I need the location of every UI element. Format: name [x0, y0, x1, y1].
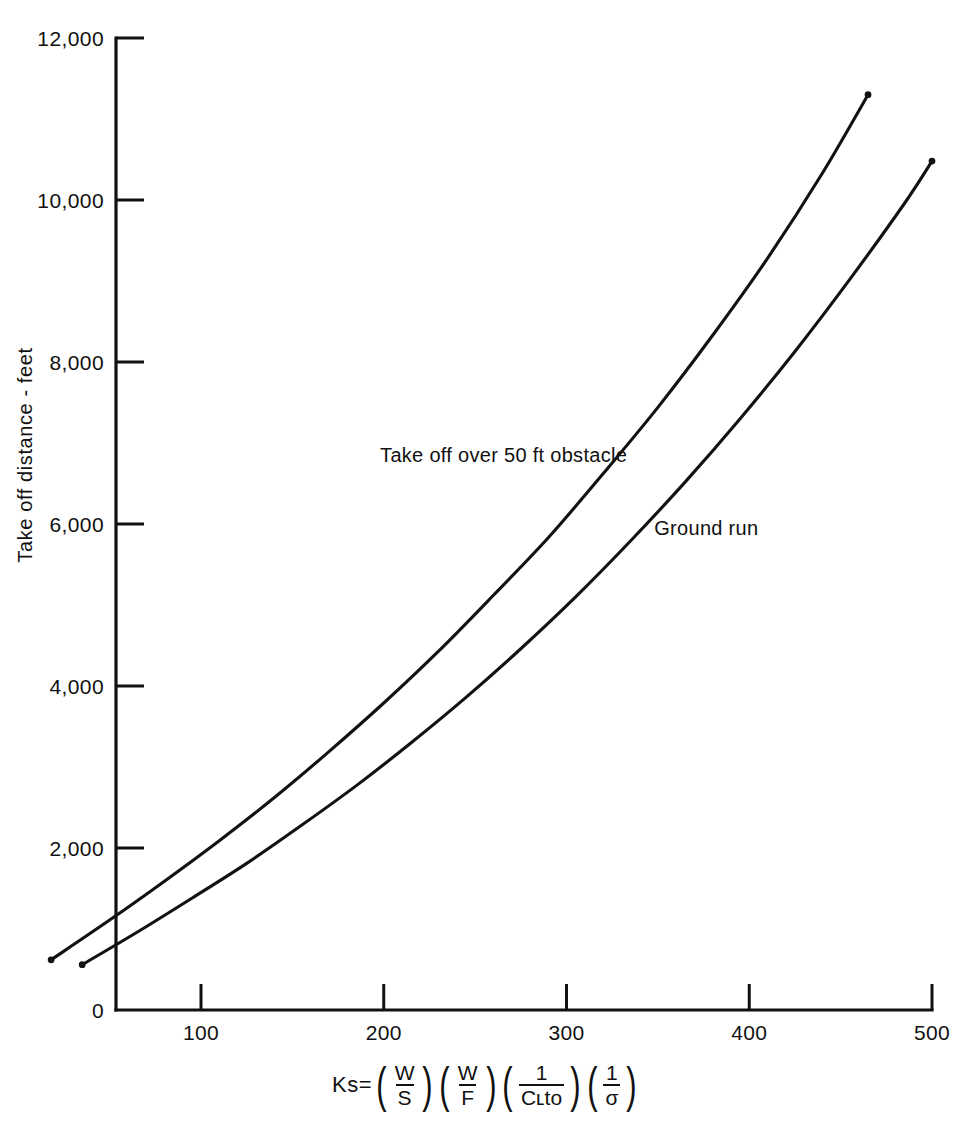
y-axis-tick-labels: 02,0004,0006,0008,00010,00012,000	[37, 27, 104, 1022]
formula-paren-close: )	[486, 1067, 496, 1103]
annotation-ground-run: Ground run	[654, 517, 758, 539]
curve-endpoint	[48, 956, 55, 963]
x-tick-label: 300	[548, 1021, 584, 1044]
formula-paren-open: (	[587, 1067, 597, 1103]
takeoff-distance-chart: 02,0004,0006,0008,00010,00012,000 100200…	[0, 0, 972, 1135]
x-axis-ticks	[201, 984, 932, 1010]
y-tick-label: 8,000	[49, 351, 104, 374]
curve-endpoint	[865, 91, 872, 98]
x-axis-tick-labels: 100200300400500	[183, 1021, 950, 1044]
formula-term: (1σ)	[584, 1062, 640, 1109]
formula-numerator: 1	[604, 1062, 620, 1084]
formula-numerator: 1	[534, 1062, 550, 1084]
formula-paren-open: (	[376, 1067, 386, 1103]
y-axis-ticks	[116, 38, 144, 848]
curve-annotations: Take off over 50 ft obstacleGround run	[380, 444, 758, 539]
y-tick-label: 2,000	[49, 837, 104, 860]
formula-terms: (WS)(WF)(1Cʟto)(1σ)	[373, 1062, 640, 1109]
formula-paren-close: )	[627, 1067, 637, 1103]
x-tick-label: 100	[183, 1021, 219, 1044]
x-tick-label: 200	[366, 1021, 402, 1044]
x-tick-label: 400	[731, 1021, 767, 1044]
chart-figure: 02,0004,0006,0008,00010,00012,000 100200…	[0, 0, 972, 1135]
formula-denominator: Cʟto	[519, 1084, 564, 1108]
formula-denominator: S	[396, 1084, 414, 1108]
formula-term: (WS)	[373, 1062, 436, 1109]
y-axis-title: Take off distance - feet	[14, 347, 36, 562]
formula-numerator: W	[456, 1062, 480, 1084]
y-tick-label: 4,000	[49, 675, 104, 698]
curve-endpoint	[929, 158, 936, 165]
y-tick-label: 0	[92, 999, 104, 1022]
formula-fraction: 1Cʟto	[516, 1062, 567, 1109]
y-tick-label: 10,000	[37, 189, 104, 212]
formula-paren-open: (	[502, 1067, 512, 1103]
y-tick-label: 6,000	[49, 513, 104, 536]
formula-fraction: WS	[390, 1062, 420, 1109]
curve-ground-run	[82, 161, 932, 965]
formula-paren-close: )	[570, 1067, 580, 1103]
formula-numerator: W	[393, 1062, 417, 1084]
curve-endpoint	[79, 961, 86, 968]
formula-paren-close: )	[423, 1067, 433, 1103]
x-axis-title: Ks= (WS)(WF)(1Cʟto)(1σ)	[0, 1062, 972, 1109]
data-curves	[48, 91, 936, 968]
formula-term: (1Cʟto)	[499, 1062, 583, 1109]
formula-paren-open: (	[439, 1067, 449, 1103]
formula-denominator: σ	[603, 1084, 620, 1108]
formula-denominator: F	[459, 1084, 476, 1108]
y-tick-label: 12,000	[37, 27, 104, 50]
formula-fraction: WF	[453, 1062, 483, 1109]
x-tick-label: 500	[914, 1021, 950, 1044]
x-axis-formula: Ks= (WS)(WF)(1Cʟto)(1σ)	[332, 1062, 640, 1109]
formula-lead: Ks=	[332, 1074, 373, 1096]
annotation-obstacle: Take off over 50 ft obstacle	[380, 444, 627, 466]
formula-term: (WF)	[436, 1062, 499, 1109]
formula-fraction: 1σ	[600, 1062, 623, 1109]
